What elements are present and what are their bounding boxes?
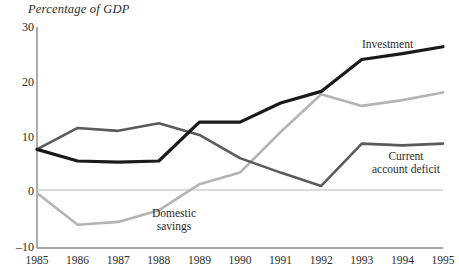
y-tick-0: 0 bbox=[6, 185, 34, 197]
y-tick-10: 10 bbox=[6, 131, 34, 143]
x-tick-1990: 1990 bbox=[220, 255, 260, 267]
axis-lines bbox=[37, 27, 443, 248]
x-tick-1992: 1992 bbox=[301, 255, 341, 267]
x-tick-1987: 1987 bbox=[98, 255, 138, 267]
current-label-line2: account deficit bbox=[372, 163, 440, 175]
x-tick-1994: 1994 bbox=[382, 255, 422, 267]
domestic-label-line2: savings bbox=[157, 220, 192, 232]
x-tick-1993: 1993 bbox=[342, 255, 382, 267]
y-tick-30: 30 bbox=[6, 21, 34, 33]
series-label-domestic-savings: Domestic savings bbox=[152, 207, 196, 233]
series-label-current-account-deficit: Current account deficit bbox=[372, 150, 440, 176]
x-tick-1985: 1985 bbox=[17, 255, 57, 267]
x-tick-1991: 1991 bbox=[261, 255, 301, 267]
current-label-line1: Current bbox=[388, 150, 423, 162]
y-axis-ticks: 30 20 10 0 –10 bbox=[0, 0, 34, 277]
series-label-investment: Investment bbox=[362, 38, 413, 51]
x-tick-1989: 1989 bbox=[179, 255, 219, 267]
y-tick-20: 20 bbox=[6, 76, 34, 88]
y-tick-minus10: –10 bbox=[6, 241, 34, 253]
domestic-label-line1: Domestic bbox=[152, 207, 196, 219]
x-tick-1988: 1988 bbox=[139, 255, 179, 267]
x-tick-1995: 1995 bbox=[423, 255, 459, 267]
x-tick-1986: 1986 bbox=[58, 255, 98, 267]
series-lines bbox=[37, 47, 443, 225]
